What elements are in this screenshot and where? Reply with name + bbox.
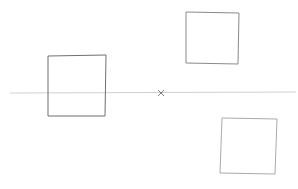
bottom-right-square (220, 118, 277, 174)
top-right-square (186, 12, 239, 64)
left-square (48, 55, 106, 116)
pencil-sketch (0, 0, 298, 189)
horizon-line (10, 92, 296, 93)
vanishing-point-icon (158, 90, 164, 96)
